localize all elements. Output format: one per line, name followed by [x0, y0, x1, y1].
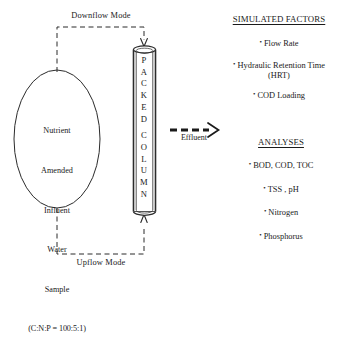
column-letter-p: P — [133, 55, 155, 67]
column-letter-o: O — [133, 142, 155, 154]
analyses-item-3: •Nitrogen — [206, 206, 356, 218]
analyses-item-2: •TSS , pH — [206, 183, 356, 195]
influent-line-3: Influent — [14, 204, 100, 217]
column-letter-m: M — [133, 177, 155, 189]
analyses-label-3: Nitrogen — [268, 208, 298, 217]
column-letter-d: D — [133, 114, 155, 126]
analyses-heading: ANALYSES — [206, 137, 356, 147]
analyses-label-1: BOD, COD, TOC — [253, 161, 313, 170]
simulated-factor-label-1: Flow Rate — [264, 39, 299, 48]
analyses-label-2: TSS , pH — [268, 184, 299, 193]
influent-line-1: Nutrient — [14, 124, 100, 137]
column-letter-l: L — [133, 154, 155, 166]
influent-line-5: Sample — [14, 283, 100, 296]
analyses-item-4: •Phosphorus — [206, 230, 356, 242]
simulated-factor-label-2: Hydraulic Retention Time — [237, 60, 324, 69]
influent-tank-label: Nutrient Amended Influent Water Sample (… — [14, 98, 100, 337]
simulated-factor-item-3: •COD Loading — [204, 89, 354, 101]
column-letter-u: U — [133, 165, 155, 177]
simulated-factor-item-1: •Flow Rate — [204, 37, 354, 49]
simulated-factor-label-3: COD Loading — [257, 91, 305, 100]
packed-column-label: P A C K E D C O L U M N — [133, 55, 155, 200]
column-letter-n: N — [133, 189, 155, 201]
column-letter-c2: C — [133, 130, 155, 142]
influent-line-4: Water — [14, 243, 100, 256]
column-letter-e: E — [133, 102, 155, 114]
simulated-factor-item-2: •Hydraulic Retention Time — [204, 59, 354, 71]
influent-line-2: Amended — [14, 164, 100, 177]
column-letter-a: A — [133, 67, 155, 79]
analyses-item-1: •BOD, COD, TOC — [206, 159, 356, 171]
influent-nutrient-ratio: (C:N:P = 100:5:1) — [14, 322, 100, 335]
column-letter-k: K — [133, 90, 155, 102]
downflow-mode-label: Downflow Mode — [57, 11, 145, 20]
column-letter-c: C — [133, 78, 155, 90]
simulated-factor-sublabel-2: (HRT) — [204, 70, 354, 81]
simulated-factors-panel: SIMULATED FACTORS •Flow Rate •Hydraulic … — [204, 14, 354, 101]
analyses-panel: ANALYSES •BOD, COD, TOC •TSS , pH •Nitro… — [206, 137, 356, 241]
analyses-label-4: Phosphorus — [264, 231, 303, 240]
simulated-factors-heading: SIMULATED FACTORS — [204, 14, 354, 24]
